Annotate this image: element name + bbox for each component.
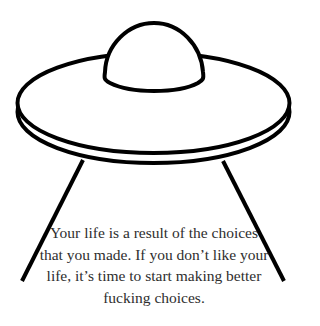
quote-line-2: that you made. If you don’t like your (30, 244, 278, 266)
quote-line-1: Your life is a result of the choices (30, 222, 278, 244)
quote-line-3: life, it’s time to start making better (30, 265, 278, 287)
saucer-dome (105, 23, 204, 91)
quote-line-4: fucking choices. (30, 287, 278, 309)
quote-text: Your life is a result of the choices tha… (30, 222, 278, 308)
